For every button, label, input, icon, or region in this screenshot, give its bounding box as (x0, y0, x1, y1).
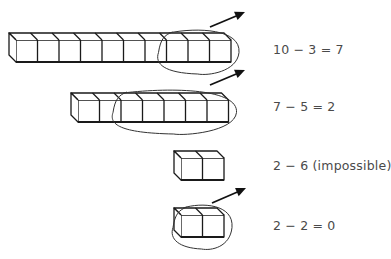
cube-row-3 (174, 151, 224, 180)
arrow-icon (212, 188, 246, 203)
equation-row-4: 2 − 2 = 0 (273, 218, 336, 233)
cube-row-4 (174, 208, 224, 237)
cube-row-2 (71, 93, 229, 122)
arrow-icon (210, 12, 245, 27)
equation-row-3: 2 − 6 (impossible) (273, 158, 391, 173)
cube-row-1 (9, 33, 231, 62)
equation-row-1: 10 − 3 = 7 (273, 42, 344, 57)
equation-row-2: 7 − 5 = 2 (273, 99, 336, 114)
arrow-icon (210, 70, 245, 85)
